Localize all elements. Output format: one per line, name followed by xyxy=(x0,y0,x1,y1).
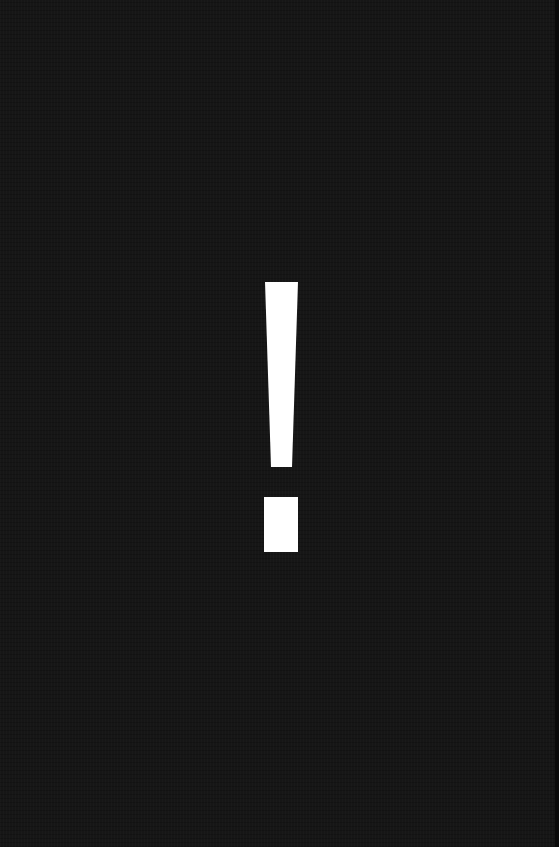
exclamation-dot xyxy=(264,497,298,552)
dark-card-background: ! xyxy=(0,0,559,847)
exclamation-bar xyxy=(265,282,298,467)
exclamation-mark-icon xyxy=(0,0,559,847)
